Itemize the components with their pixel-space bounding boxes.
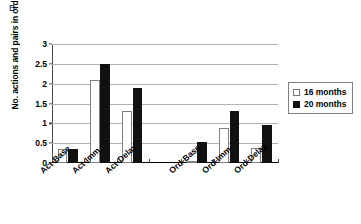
y-tick-label: 2.5 xyxy=(35,59,47,69)
chart-legend: 16 months 20 months xyxy=(288,82,353,114)
white-square-icon xyxy=(293,89,300,96)
bar-group-empty xyxy=(149,44,181,163)
bar-group-container xyxy=(52,44,278,163)
chart-plot-area: 00.511.522.53 Act-BaseAct-ImmAct-DelayOr… xyxy=(52,44,278,163)
bar-ord-imm-20-months[interactable] xyxy=(230,111,240,163)
legend-item-20-months[interactable]: 20 months xyxy=(293,98,347,110)
y-axis-title: No. actions and pairs in order xyxy=(10,0,20,111)
legend-label: 16 months xyxy=(304,87,347,97)
x-tick-mark xyxy=(278,159,279,163)
y-tick-label: 2 xyxy=(42,79,47,89)
y-tick-label: 3 xyxy=(42,39,47,49)
bar-act-imm-20-months[interactable] xyxy=(100,64,110,163)
bar-group-ord-imm xyxy=(213,44,245,163)
y-tick-label: 1 xyxy=(42,118,47,128)
legend-item-16-months[interactable]: 16 months xyxy=(293,86,347,98)
y-tick-label: 1.5 xyxy=(35,99,47,109)
legend-label: 20 months xyxy=(304,99,347,109)
y-tick-label: 0.5 xyxy=(35,138,47,148)
bar-group-act-imm xyxy=(84,44,116,163)
bar-group-act-base xyxy=(52,44,84,163)
black-square-icon xyxy=(293,101,300,108)
